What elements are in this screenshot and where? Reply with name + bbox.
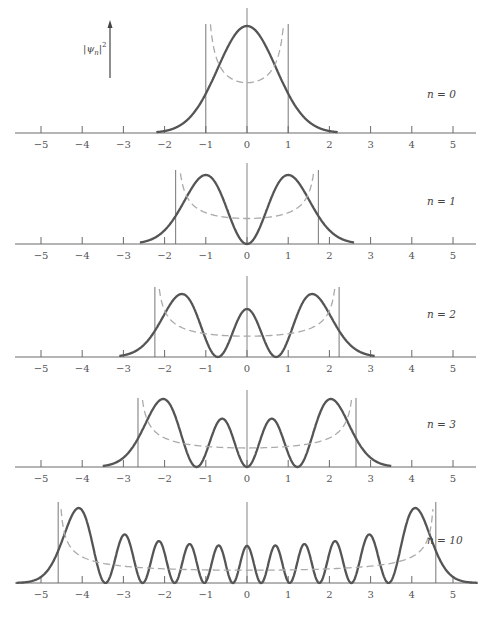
x-tick-label: 4 <box>409 363 415 374</box>
x-tick-label: 5 <box>450 589 456 600</box>
x-tick-label: −2 <box>157 589 172 600</box>
x-tick-label: −3 <box>116 139 131 150</box>
panel-label: n = 2 <box>427 308 456 320</box>
y-axis-label-group: |ψn|2 <box>83 20 113 78</box>
x-tick-label: −5 <box>34 363 49 374</box>
panel-n-10: −5−4−3−2−1012345n = 10 <box>15 502 478 600</box>
x-tick-label: 5 <box>450 250 456 261</box>
x-tick-label: −4 <box>75 589 90 600</box>
x-tick-label: −3 <box>116 250 131 261</box>
x-tick-label: 3 <box>367 139 373 150</box>
x-tick-label: 2 <box>326 589 332 600</box>
x-tick-label: 2 <box>326 139 332 150</box>
x-tick-label: −1 <box>198 363 213 374</box>
x-tick-label: −4 <box>75 473 90 484</box>
x-tick-label: −2 <box>157 139 172 150</box>
x-tick-label: −2 <box>157 363 172 374</box>
x-tick-label: −3 <box>116 589 131 600</box>
x-tick-label: 1 <box>285 250 291 261</box>
x-tick-label: 3 <box>367 473 373 484</box>
x-tick-label: 4 <box>409 139 415 150</box>
panel-label: n = 0 <box>427 88 456 100</box>
x-tick-label: −5 <box>34 589 49 600</box>
panel-n-0: −5−4−3−2−1012345n = 0 <box>15 8 476 150</box>
x-tick-label: −1 <box>198 250 213 261</box>
x-tick-label: 2 <box>326 473 332 484</box>
x-tick-label: −5 <box>34 139 49 150</box>
x-tick-label: 4 <box>409 250 415 261</box>
x-tick-label: −5 <box>34 473 49 484</box>
panel-n-2: −5−4−3−2−1012345n = 2 <box>15 276 476 374</box>
x-tick-label: 5 <box>450 139 456 150</box>
x-tick-label: −4 <box>75 250 90 261</box>
x-tick-label: −3 <box>116 473 131 484</box>
x-tick-label: 0 <box>244 250 250 261</box>
x-tick-label: 2 <box>326 250 332 261</box>
x-tick-label: 5 <box>450 363 456 374</box>
x-tick-label: 0 <box>244 139 250 150</box>
x-tick-label: −5 <box>34 250 49 261</box>
x-tick-label: −1 <box>198 139 213 150</box>
x-tick-label: −2 <box>157 473 172 484</box>
x-tick-label: 4 <box>409 473 415 484</box>
x-tick-label: 1 <box>285 473 291 484</box>
panel-n-1: −5−4−3−2−1012345n = 1 <box>15 163 476 261</box>
x-tick-label: 0 <box>244 473 250 484</box>
x-tick-label: −3 <box>116 363 131 374</box>
panel-label: n = 1 <box>427 195 456 207</box>
x-tick-label: 1 <box>285 363 291 374</box>
x-tick-label: 1 <box>285 589 291 600</box>
x-tick-label: 3 <box>367 363 373 374</box>
panel-label: n = 3 <box>427 418 456 430</box>
x-tick-label: 2 <box>326 363 332 374</box>
x-tick-label: −4 <box>75 363 90 374</box>
x-tick-label: 1 <box>285 139 291 150</box>
x-tick-label: 5 <box>450 473 456 484</box>
x-tick-label: −2 <box>157 250 172 261</box>
x-tick-label: 3 <box>367 250 373 261</box>
x-tick-label: 0 <box>244 363 250 374</box>
x-tick-label: −1 <box>198 589 213 600</box>
y-axis-label: |ψn|2 <box>83 41 107 57</box>
panel-n-3: −5−4−3−2−1012345n = 3 <box>15 390 476 484</box>
x-tick-label: −1 <box>198 473 213 484</box>
harmonic-oscillator-figure: |ψn|2 −5−4−3−2−1012345n = 0−5−4−3−2−1012… <box>0 0 491 625</box>
x-tick-label: 0 <box>244 589 250 600</box>
x-tick-label: 4 <box>409 589 415 600</box>
x-tick-label: 3 <box>367 589 373 600</box>
y-axis-arrow-head-icon <box>108 20 113 28</box>
x-tick-label: −4 <box>75 139 90 150</box>
panel-label: n = 10 <box>427 534 463 546</box>
